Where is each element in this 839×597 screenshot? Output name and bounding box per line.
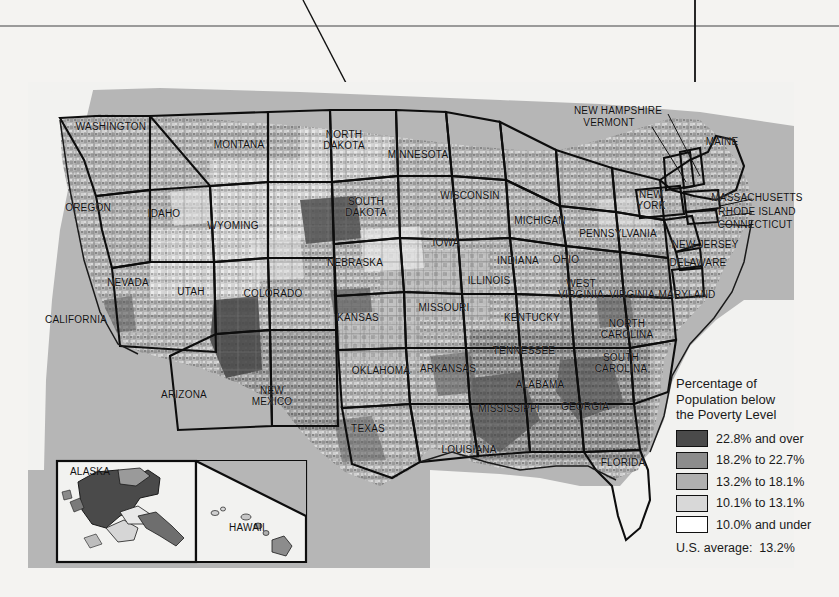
inset-label-alaska: ALASKA	[70, 466, 110, 477]
legend-label: 18.2% to 22.7%	[716, 453, 804, 467]
hawaii-inset	[196, 461, 306, 562]
legend-title: Percentage of Population below the Pover…	[676, 376, 826, 423]
legend-swatch-13-2-to-18-1	[676, 473, 708, 490]
legend-row: 10.0% and under	[676, 515, 826, 535]
legend-swatch-10-0-and-under	[676, 516, 708, 533]
legend-swatch-18-2-to-22-7	[676, 452, 708, 469]
map-legend: Percentage of Population below the Pover…	[676, 376, 826, 555]
legend-row: 22.8% and over	[676, 429, 826, 449]
legend-row: 18.2% to 22.7%	[676, 450, 826, 470]
legend-label: 22.8% and over	[716, 432, 804, 446]
legend-row: 10.1% to 13.1%	[676, 493, 826, 513]
legend-us-average: U.S. average: 13.2%	[676, 541, 826, 555]
legend-row: 13.2% to 18.1%	[676, 472, 826, 492]
inset-label-hawaii: HAWAII	[229, 522, 265, 533]
map-figure: WASHINGTON OREGON CALIFORNIA IDAHO NEVAD…	[0, 0, 839, 597]
legend-label: 10.0% and under	[716, 518, 811, 532]
legend-label: 10.1% to 13.1%	[716, 496, 804, 510]
legend-swatch-10-1-to-13-1	[676, 495, 708, 512]
legend-swatch-22-8-and-over	[676, 430, 708, 447]
legend-label: 13.2% to 18.1%	[716, 475, 804, 489]
